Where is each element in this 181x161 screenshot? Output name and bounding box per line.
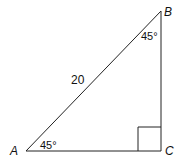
angle-b-label: 45° <box>141 30 158 42</box>
angle-a-label: 45° <box>40 139 57 151</box>
triangle-diagram: A B C 20 45° 45° <box>0 0 181 161</box>
vertex-label-b: B <box>164 5 172 19</box>
right-angle-marker <box>138 127 161 151</box>
hypotenuse-length-label: 20 <box>71 73 85 87</box>
vertex-label-a: A <box>9 144 18 158</box>
vertex-label-c: C <box>165 144 174 158</box>
